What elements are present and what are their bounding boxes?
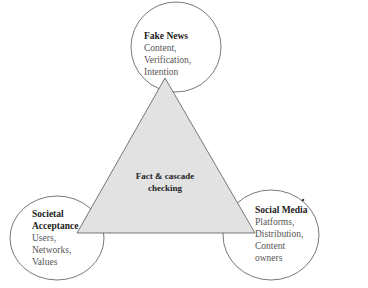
node-title: Social Media	[255, 204, 308, 216]
diagram-canvas: Fake News Content, Verification, Intenti…	[0, 0, 368, 288]
node-item: Networks,	[32, 244, 78, 256]
node-social-media: Social Media Platforms, Distribution, Co…	[255, 204, 308, 264]
arrow-marker-icon	[302, 199, 305, 202]
node-item: Intention	[144, 66, 191, 78]
node-societal-acceptance: Societal Acceptance Users, Networks, Val…	[32, 208, 78, 268]
center-label: Fact & cascade checking	[110, 170, 220, 194]
node-item: Content	[255, 240, 308, 252]
node-item: Platforms,	[255, 216, 308, 228]
node-item: Users,	[32, 232, 78, 244]
center-line: checking	[110, 182, 220, 194]
triangle-fact-checking	[77, 78, 255, 233]
node-title: Fake News	[144, 30, 191, 42]
node-item: Verification,	[144, 54, 191, 66]
node-fake-news: Fake News Content, Verification, Intenti…	[144, 30, 191, 78]
node-title: Acceptance	[32, 220, 78, 232]
node-item: owners	[255, 252, 308, 264]
node-item: Values	[32, 256, 78, 268]
center-line: Fact & cascade	[110, 170, 220, 182]
node-item: Content,	[144, 42, 191, 54]
node-item: Distribution,	[255, 228, 308, 240]
node-title: Societal	[32, 208, 78, 220]
